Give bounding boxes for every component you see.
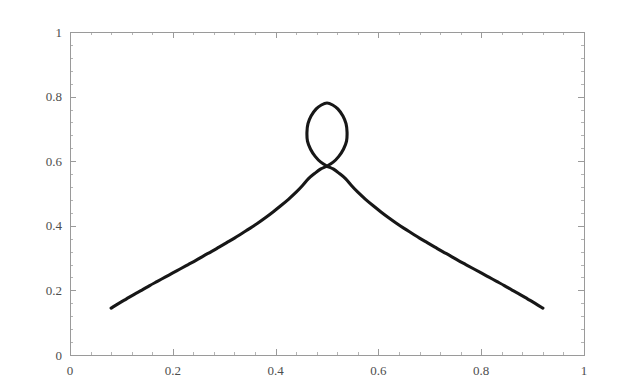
- y-tick-label: 0.2: [46, 283, 62, 298]
- y-tick-label: 0.6: [46, 154, 63, 169]
- y-tick-label: 0.8: [46, 89, 62, 104]
- y-tick-label: 0: [56, 348, 63, 363]
- x-tick-label: 0: [67, 363, 74, 378]
- x-tick-label: 0.2: [165, 363, 181, 378]
- plot-background: [0, 0, 618, 392]
- chart-container: 00.20.40.60.81 00.20.40.60.81: [0, 0, 618, 392]
- x-tick-label: 0.6: [370, 363, 387, 378]
- parametric-curve-plot: 00.20.40.60.81 00.20.40.60.81: [0, 0, 618, 392]
- y-tick-label: 0.4: [46, 218, 63, 233]
- y-tick-label: 1: [56, 25, 63, 40]
- x-tick-label: 1: [581, 363, 588, 378]
- x-tick-label: 0.8: [473, 363, 489, 378]
- x-tick-label: 0.4: [267, 363, 284, 378]
